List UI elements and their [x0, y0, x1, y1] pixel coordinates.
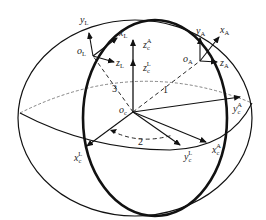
label-ycA: ycA: [232, 101, 242, 115]
ycA-vector: [133, 97, 240, 112]
meridian-ellipse: [83, 20, 227, 216]
label-ycL: ycL: [183, 149, 192, 163]
angle-2-arrowhead: [110, 129, 117, 134]
xcL-vector: [87, 112, 133, 146]
label-zcA: zcA: [142, 37, 152, 51]
xL-axis: [93, 38, 117, 56]
equator-back: [20, 81, 252, 113]
angle-label-3: 3: [112, 83, 117, 94]
label-yL: yL: [79, 14, 88, 26]
label-oL: oL: [77, 45, 86, 57]
zcL-arrowhead: [130, 59, 136, 66]
angle-label-1: 1: [163, 84, 168, 95]
label-oc: oc: [119, 104, 127, 116]
label-oA: oA: [183, 53, 193, 65]
label-xcA: xcA: [211, 142, 221, 156]
label-xcL: xcL: [73, 150, 82, 164]
label-zL: zL: [115, 57, 124, 69]
angle-label-2: 2: [138, 136, 143, 147]
label-zA: zA: [219, 57, 229, 69]
outer-ellipsoid: [18, 20, 252, 216]
yL-axis: [89, 33, 93, 56]
ellipsoid-coordinate-diagram: yL xL oL zL zcA zcL yA xA oA zA oc ycA x…: [0, 0, 266, 220]
label-xA: xA: [219, 24, 229, 36]
label-zcL: zcL: [142, 60, 151, 74]
xA-axis: [200, 37, 219, 61]
label-yA: yA: [195, 25, 205, 37]
